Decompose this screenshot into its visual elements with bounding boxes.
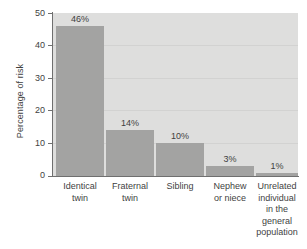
x-label-unrelated-individual: Unrelated individual in the general popu… [229,181,307,239]
x-label-line: twin [82,193,178,205]
bar-label-unrelated-individual: 1% [229,161,307,171]
x-axis-line [52,176,299,177]
bar-label-sibling: 10% [132,131,228,141]
bar-label-fraternal-twin: 14% [82,118,178,128]
bar-identical-twin [56,26,104,176]
y-tick-label-30: 30 [3,74,45,83]
y-tick-20: 20 [0,106,45,115]
bar-chart: Percentage of risk 50 40 30 20 10 0 46% … [0,0,307,249]
x-label-line: population [229,227,307,239]
y-axis-line [52,12,53,177]
y-tick-40: 40 [0,41,45,50]
x-label-line: Unrelated [229,181,307,193]
y-axis-title: Percentage of risk [15,31,25,171]
x-label-line: individual [229,193,307,205]
y-tick-0: 0 [0,171,45,180]
x-label-line: in the [229,204,307,216]
y-tick-30: 30 [0,74,45,83]
x-label-line: general [229,216,307,228]
y-tick-label-40: 40 [3,41,45,50]
y-tick-10: 10 [0,139,45,148]
y-tick-label-20: 20 [3,106,45,115]
bar-label-identical-twin: 46% [32,14,128,24]
y-tick-label-10: 10 [3,139,45,148]
y-tick-label-0: 0 [3,171,45,180]
plot-area [52,13,298,176]
